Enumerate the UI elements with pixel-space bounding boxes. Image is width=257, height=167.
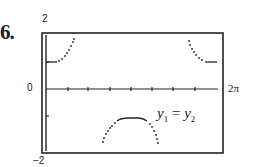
eq-rhs-sub: 2 [191, 114, 196, 124]
eq-rhs: y [184, 105, 191, 121]
eq-sign: = [168, 105, 184, 121]
equation-annotation: y1 = y2 [157, 105, 195, 124]
curve-bottom-arch [102, 118, 159, 144]
curve-top-right [188, 40, 217, 62]
graph-frame [42, 33, 223, 153]
graph-plot [0, 0, 257, 167]
curve-top-left [46, 38, 75, 62]
eq-lhs: y [157, 105, 164, 121]
